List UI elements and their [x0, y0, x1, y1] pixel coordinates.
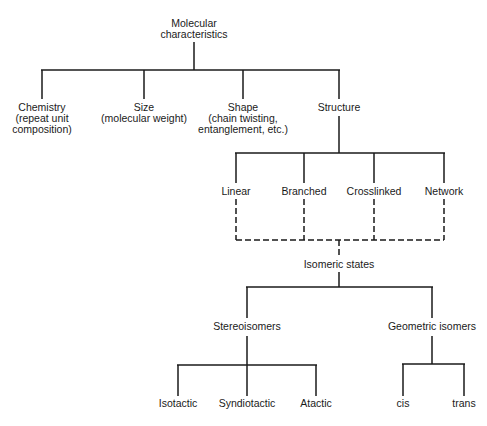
node-label: Stereoisomers — [213, 321, 281, 332]
node-chemistry: Chemistry (repeat unit composition) — [12, 102, 72, 135]
molecular-characteristics-tree: Molecular characteristics Chemistry (rep… — [0, 0, 487, 426]
node-label: Isotactic — [159, 398, 198, 409]
node-label: Crosslinked — [347, 186, 402, 197]
node-label: Atactic — [300, 398, 332, 409]
node-isotactic: Isotactic — [159, 398, 198, 409]
node-label: Structure — [318, 102, 361, 113]
node-label: Branched — [282, 186, 327, 197]
node-label: Network — [425, 186, 464, 197]
node-label: trans — [452, 398, 475, 409]
node-sublabel: composition) — [12, 124, 72, 135]
node-label: cis — [397, 398, 410, 409]
node-label: Syndiotactic — [219, 398, 276, 409]
node-trans: trans — [452, 398, 475, 409]
node-sublabel: (molecular weight) — [101, 113, 187, 124]
node-size: Size (molecular weight) — [101, 102, 187, 124]
node-syndiotactic: Syndiotactic — [219, 398, 276, 409]
node-branched: Branched — [282, 186, 327, 197]
node-label: Isomeric states — [304, 259, 375, 270]
node-network: Network — [425, 186, 464, 197]
node-shape: Shape (chain twisting, entanglement, etc… — [198, 102, 288, 135]
node-geometric-isomers: Geometric isomers — [388, 321, 476, 332]
connector-lines — [0, 0, 487, 426]
node-label: characteristics — [160, 29, 227, 40]
node-sublabel: entanglement, etc.) — [198, 124, 288, 135]
node-label: Linear — [221, 186, 250, 197]
node-label: Geometric isomers — [388, 321, 476, 332]
node-crosslinked: Crosslinked — [347, 186, 402, 197]
node-linear: Linear — [221, 186, 250, 197]
node-cis: cis — [397, 398, 410, 409]
node-atactic: Atactic — [300, 398, 332, 409]
node-stereoisomers: Stereoisomers — [213, 321, 281, 332]
node-molecular-characteristics: Molecular characteristics — [160, 18, 227, 40]
node-structure: Structure — [318, 102, 361, 113]
node-isomeric-states: Isomeric states — [304, 259, 375, 270]
